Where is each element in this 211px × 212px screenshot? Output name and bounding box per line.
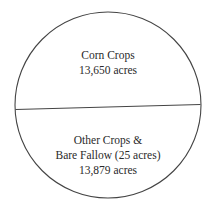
pie-chart xyxy=(0,0,211,212)
other-crops-label: Other Crops & Bare Fallow (25 acres) 13,… xyxy=(0,133,211,178)
other-crops-value: 13,879 acres xyxy=(0,163,211,178)
corn-crops-label: Corn Crops 13,650 acres xyxy=(0,48,211,78)
corn-crops-value: 13,650 acres xyxy=(0,63,211,78)
bare-fallow-note: Bare Fallow (25 acres) xyxy=(0,148,211,163)
corn-crops-title: Corn Crops xyxy=(0,48,211,63)
other-crops-title: Other Crops & xyxy=(0,133,211,148)
